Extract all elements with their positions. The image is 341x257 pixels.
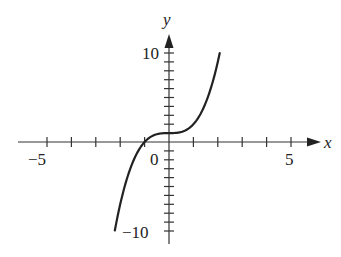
cubic-function-graph: x y −5 0 5 10 −10 [0, 0, 341, 257]
x-axis-label: x [323, 133, 332, 152]
y-axis-label: y [161, 10, 171, 29]
y-axis-arrow-icon [165, 34, 174, 48]
x-tick-label-zero: 0 [150, 150, 159, 169]
x-tick-label-neg5: −5 [28, 150, 46, 169]
y-tick-label-pos10: 10 [142, 44, 159, 63]
x-tick-label-pos5: 5 [285, 150, 294, 169]
y-tick-label-neg10: −10 [122, 223, 149, 242]
axes [18, 34, 321, 244]
x-axis-arrow-icon [307, 138, 321, 147]
